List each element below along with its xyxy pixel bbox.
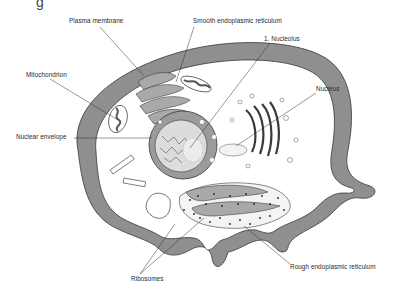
- label-mitochondrion: Mitochondrion: [26, 72, 67, 78]
- top-cutoff-glyph: g: [36, 0, 44, 10]
- vacuole-shape: [146, 193, 170, 218]
- label-nuclear-envelope: Nuclear envelope: [16, 134, 67, 140]
- cell-diagram: [0, 0, 396, 292]
- label-nucleus: Nucleus: [316, 86, 339, 92]
- label-plasma-membrane: Plasma membrane: [69, 18, 123, 24]
- label-nucleolus: 1. Nucleolus: [264, 36, 300, 42]
- label-smooth-er: Smooth endoplasmic reticulum: [193, 18, 282, 24]
- label-rough-er: Rough endoplasmic reticulum: [290, 264, 376, 270]
- label-ribosomes: Ribosomes: [131, 276, 163, 282]
- lysosome-shape: [219, 144, 247, 156]
- nucleus-shape: [149, 111, 217, 179]
